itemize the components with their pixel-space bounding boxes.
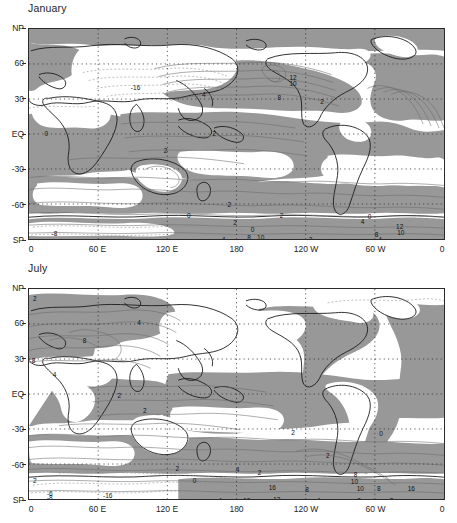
contour-value-label: 8 xyxy=(277,94,281,101)
contour-value-label: 2 xyxy=(143,407,147,414)
contour-value-label: -16 xyxy=(103,492,112,499)
contour-value-label: 10 xyxy=(351,477,358,484)
contour-value-label: 0 xyxy=(193,476,197,483)
map-plot-july: 24884222022422081016810816-6-8-164101248… xyxy=(28,288,445,500)
contour-value-label: 2 xyxy=(258,468,262,475)
y-tick-mark xyxy=(22,169,26,170)
y-tick-mark xyxy=(22,63,26,64)
contour-value-label: 8 xyxy=(377,485,381,492)
contour-value-label: 2 xyxy=(320,97,324,104)
contour-value-label: 2 xyxy=(164,147,168,154)
x-tick-label: 0 xyxy=(29,504,34,514)
contour-value-label: -8 xyxy=(52,229,58,236)
contour-value-label: 0 xyxy=(379,429,383,436)
contour-value-label: 4 xyxy=(53,370,57,377)
x-tick-label: 0 xyxy=(440,504,445,514)
contour-value-label: 10 xyxy=(243,496,250,500)
x-axis-january: 060 E120 E180120 W60 W0 xyxy=(28,242,445,258)
map-svg-january xyxy=(29,29,444,239)
x-tick-label: 120 E xyxy=(156,504,178,514)
y-tick-mark xyxy=(22,240,26,241)
contour-value-label: 8 xyxy=(357,496,361,500)
contour-value-label: 2 xyxy=(390,496,394,500)
contour-value-label: 4 xyxy=(236,466,240,473)
figure-container: January xyxy=(0,0,457,523)
contour-value-label: 8 xyxy=(247,234,251,240)
y-tick-mark xyxy=(22,134,26,135)
y-tick-mark xyxy=(22,358,26,359)
y-tick-mark xyxy=(22,394,26,395)
contour-value-label: 2 xyxy=(228,201,232,208)
y-tick-mark xyxy=(22,98,26,99)
contour-value-label: 2 xyxy=(280,212,284,219)
contour-value-label: 2 xyxy=(33,476,37,483)
y-tick-mark xyxy=(22,323,26,324)
contour-value-label: 4 xyxy=(378,235,382,240)
x-tick-label: 180 xyxy=(229,244,243,254)
contour-value-label: 4 xyxy=(218,496,222,500)
contour-value-label: 0 xyxy=(368,213,372,220)
contour-value-label: 16 xyxy=(408,485,415,492)
x-tick-label: 120 W xyxy=(294,504,319,514)
contour-value-label: 2 xyxy=(233,219,237,226)
contour-value-label: 2 xyxy=(175,465,179,472)
x-tick-label: 180 xyxy=(229,504,243,514)
x-axis-july: 060 E120 E180120 W60 W0 xyxy=(28,502,445,518)
x-tick-label: 60 W xyxy=(366,504,386,514)
map-plot-january: -16412108220222020-84810204121084 xyxy=(28,28,445,240)
x-tick-label: 60 W xyxy=(366,244,386,254)
y-tick-mark xyxy=(22,500,26,501)
y-tick-mark xyxy=(22,28,26,29)
y-axis-july: NP6030EQ-30-60SP xyxy=(0,288,26,500)
contour-value-label: -16 xyxy=(131,83,140,90)
y-tick-mark xyxy=(22,204,26,205)
contour-value-label: 10 xyxy=(257,234,264,240)
contour-value-label: 2 xyxy=(118,392,122,399)
y-axis-january: NP6030EQ-30-60SP xyxy=(0,28,26,240)
contour-value-label: 0 xyxy=(45,129,49,136)
contour-value-label: 4 xyxy=(317,496,321,500)
contour-value-label: 4 xyxy=(202,90,206,97)
contour-value-label: 16 xyxy=(269,483,276,490)
x-tick-label: 120 W xyxy=(294,244,319,254)
contour-value-label: 2 xyxy=(213,129,217,136)
contour-value-label: 2 xyxy=(309,235,313,240)
panel-title-july: July xyxy=(28,262,47,274)
contour-value-label: -8 xyxy=(47,494,53,500)
contour-value-label: 2 xyxy=(326,452,330,459)
contour-value-label: 4 xyxy=(137,318,141,325)
contour-value-label: 0 xyxy=(251,226,255,233)
y-tick-mark xyxy=(22,288,26,289)
contour-value-label: 2 xyxy=(291,428,295,435)
x-tick-label: 0 xyxy=(29,244,34,254)
contour-value-label: 10 xyxy=(397,228,404,235)
contour-value-label: 12 xyxy=(273,495,280,500)
contour-value-label: 10 xyxy=(289,80,296,87)
contour-value-label: 10 xyxy=(357,485,364,492)
panel-title-january: January xyxy=(28,2,67,14)
contour-value-label: 8 xyxy=(305,486,309,493)
contour-value-label: 8 xyxy=(354,470,358,477)
contour-value-label: 4 xyxy=(361,217,365,224)
y-tick-mark xyxy=(22,464,26,465)
contour-value-label: 0 xyxy=(187,212,191,219)
x-tick-label: 60 E xyxy=(89,244,107,254)
x-tick-label: 60 E xyxy=(89,504,107,514)
contour-value-label: 8 xyxy=(32,356,36,363)
x-tick-label: 120 E xyxy=(156,244,178,254)
contour-value-label: 8 xyxy=(83,336,87,343)
y-tick-mark xyxy=(22,429,26,430)
contour-value-label: 2 xyxy=(33,295,37,302)
x-tick-label: 0 xyxy=(440,244,445,254)
contour-value-label: 4 xyxy=(222,235,226,240)
